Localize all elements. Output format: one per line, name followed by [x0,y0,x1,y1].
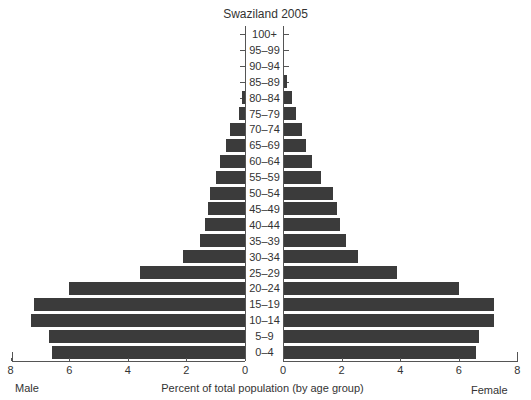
male-bar [140,266,245,279]
female-x-tick-label: 4 [390,364,410,376]
age-group-label: 85–89 [246,75,283,89]
male-axis-line [245,26,246,361]
age-group-label: 45–49 [246,202,283,216]
x-tick [186,358,187,361]
age-group-label: 5–9 [246,329,283,343]
male-bar [200,234,245,247]
age-group-label: 95–99 [246,43,283,57]
male-bar [205,218,245,231]
age-group-label: 35–39 [246,234,283,248]
female-x-axis [283,361,518,362]
female-bar [283,202,337,215]
male-bar [220,155,245,168]
axis-end-tick [12,352,13,361]
age-group-label: 90–94 [246,59,283,73]
male-bar [34,298,245,311]
age-group-label: 0–4 [246,345,283,359]
female-label: Female [471,384,508,396]
female-bar [283,171,321,184]
x-tick [400,358,401,361]
age-group-label: 75–79 [246,107,283,121]
male-bar [230,123,245,136]
population-pyramid-chart: Swaziland 2005 100+95–9990–9485–8980–847… [0,0,531,400]
age-group-label: 15–19 [246,297,283,311]
female-x-tick-label: 2 [332,364,352,376]
male-bar [208,202,245,215]
male-bar [210,187,245,200]
female-bar [283,139,306,152]
male-x-tick-label: 2 [176,364,196,376]
male-bar [31,314,245,327]
female-bar [283,346,476,359]
female-bar [283,250,358,263]
female-bar [283,314,494,327]
female-bar [283,266,397,279]
male-x-tick-label: 6 [59,364,79,376]
female-bar [283,107,296,120]
male-bar [226,139,245,152]
age-group-label: 70–74 [246,122,283,136]
female-x-tick-label: 8 [507,364,527,376]
female-bar [283,155,312,168]
x-tick [459,358,460,361]
age-group-label: 60–64 [246,154,283,168]
male-x-tick-label: 4 [118,364,138,376]
age-group-label: 25–29 [246,266,283,280]
female-bar [283,298,494,311]
age-group-label: 20–24 [246,281,283,295]
row-tick [284,34,289,35]
female-bar [283,330,479,343]
x-tick [128,358,129,361]
female-bar [283,123,302,136]
x-tick [283,358,284,361]
age-group-label: 100+ [246,27,283,41]
age-group-label: 55–59 [246,170,283,184]
male-bar [183,250,245,263]
x-axis-title: Percent of total population (by age grou… [0,382,528,394]
age-group-label: 30–34 [246,250,283,264]
age-group-label: 65–69 [246,138,283,152]
female-bar [283,234,346,247]
chart-title: Swaziland 2005 [0,7,531,21]
male-x-axis [12,361,245,362]
female-bar [283,91,292,104]
x-tick [69,358,70,361]
female-bar [283,187,333,200]
male-bar [49,330,245,343]
age-group-label: 50–54 [246,186,283,200]
male-bar [216,171,245,184]
male-bar [69,282,245,295]
male-bar [52,346,245,359]
female-x-tick-label: 0 [273,364,293,376]
x-tick [245,358,246,361]
x-tick [517,358,518,361]
female-bar [283,282,459,295]
female-axis-line [283,26,284,361]
male-x-tick-label: 0 [235,364,255,376]
age-group-label: 40–44 [246,218,283,232]
age-group-label: 80–84 [246,91,283,105]
row-tick [284,66,289,67]
female-bar [283,218,340,231]
age-group-label: 10–14 [246,313,283,327]
female-x-tick-label: 6 [449,364,469,376]
x-tick [342,358,343,361]
row-tick [284,50,289,51]
male-x-tick-label: 8 [1,364,21,376]
x-tick [11,358,12,361]
